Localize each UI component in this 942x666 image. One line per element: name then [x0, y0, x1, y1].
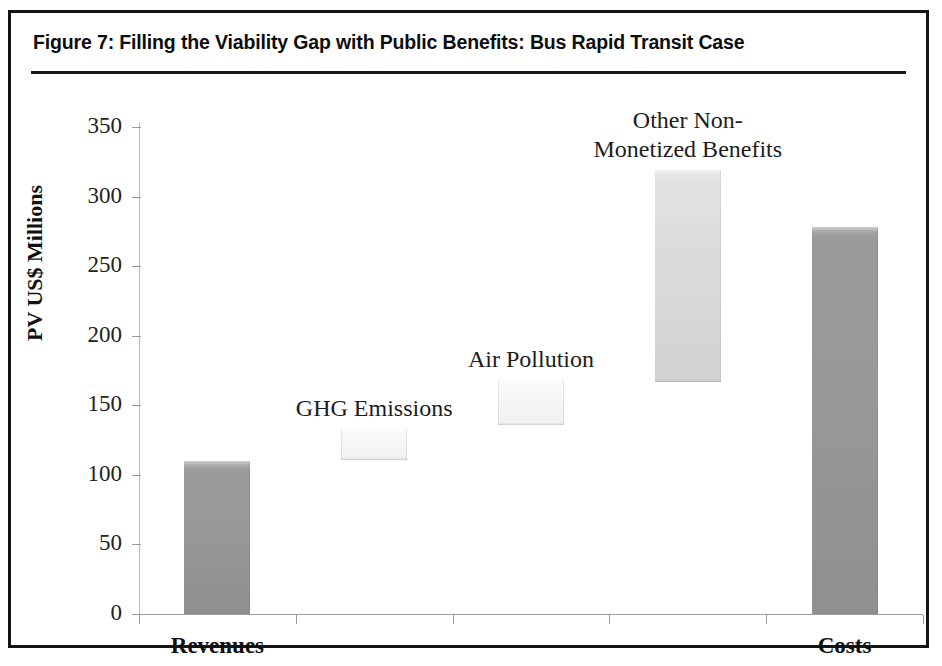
y-axis-title: PV US$ Millions	[22, 185, 48, 341]
y-tick-label: 250	[88, 253, 123, 277]
x-axis-label-revenues: Revenues	[107, 633, 327, 659]
y-tick: 300	[131, 197, 141, 198]
y-tick-mark	[132, 127, 141, 128]
bar-costs	[812, 227, 878, 614]
figure-title: Figure 7: Filling the Viability Gap with…	[33, 31, 903, 54]
figure-frame: Figure 7: Filling the Viability Gap with…	[8, 10, 929, 648]
bar-ghg-emissions	[341, 429, 407, 460]
x-axis-label-costs: Costs	[735, 633, 942, 659]
y-tick: 100	[131, 475, 141, 476]
y-tick-mark	[132, 544, 141, 545]
x-tick-mark	[453, 615, 454, 624]
x-tick-mark	[139, 615, 140, 624]
bar-annotation: Other Non- Monetized Benefits	[538, 106, 838, 164]
plot-area: 050100150200250300350 GHG EmissionsAir P…	[131, 117, 923, 615]
x-tick-mark	[923, 615, 924, 624]
y-tick: 250	[131, 266, 141, 267]
y-tick-mark	[132, 405, 141, 406]
y-tick-mark	[132, 336, 141, 337]
bar-annotation: Air Pollution	[381, 345, 681, 374]
y-tick-mark	[132, 475, 141, 476]
x-tick-mark	[609, 615, 610, 624]
y-tick: 150	[131, 405, 141, 406]
y-tick-mark	[132, 197, 141, 198]
y-tick-label: 0	[111, 601, 123, 625]
bar-annotation: GHG Emissions	[224, 394, 524, 423]
y-tick: 350	[131, 127, 141, 128]
bar-revenues	[184, 461, 250, 614]
title-divider	[31, 71, 906, 74]
y-tick-label: 350	[88, 114, 123, 138]
y-tick-label: 100	[88, 462, 123, 486]
x-tick-mark	[766, 615, 767, 624]
y-tick-label: 50	[99, 531, 122, 555]
y-tick-mark	[132, 266, 141, 267]
y-tick: 200	[131, 336, 141, 337]
x-axis-line	[139, 614, 923, 615]
y-tick-label: 200	[88, 323, 123, 347]
y-tick-label: 300	[88, 184, 123, 208]
y-tick: 50	[131, 544, 141, 545]
y-tick-label: 150	[88, 392, 123, 416]
x-tick-mark	[296, 615, 297, 624]
